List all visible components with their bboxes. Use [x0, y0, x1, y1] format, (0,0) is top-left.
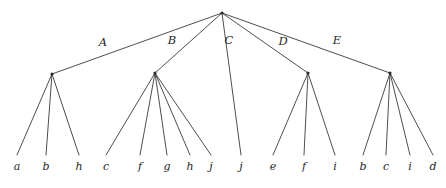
edge-label-a: A: [98, 35, 107, 49]
edge-label-b: B: [167, 33, 176, 47]
root-edge-d: [222, 13, 308, 73]
leaf-label-10-f: f: [301, 160, 308, 173]
tree-diagram-canvas: ABCDE abhcfghjjefibcid: [0, 0, 446, 188]
edge-label-c: C: [225, 33, 234, 47]
leaf-edge-12: [386, 73, 390, 155]
leaf-label-4-f: f: [137, 160, 144, 173]
root-edge-b: [155, 13, 222, 73]
root-node: [220, 11, 223, 14]
leaf-label-3-c: c: [103, 160, 109, 173]
leaf-label-15-d: d: [429, 160, 436, 173]
node-d: [306, 71, 309, 74]
leaf-label-1-b: b: [42, 160, 49, 173]
leaf-edge-10: [308, 73, 335, 155]
leaf-label-0-a: a: [14, 160, 21, 173]
leaf-label-6-h: h: [186, 160, 193, 173]
leaf-label-2-h: h: [75, 160, 82, 173]
leaf-label-8-j: j: [236, 160, 243, 173]
leaf-labels-group: abhcfghjjefibcid: [14, 160, 437, 173]
leaf-label-11-i: i: [333, 160, 337, 173]
leaf-edge-6: [155, 73, 190, 155]
leaf-edges-group: [17, 73, 433, 155]
leaf-label-7-j: j: [206, 160, 213, 173]
leaf-edge-14: [390, 73, 433, 155]
root-edge-e: [222, 13, 390, 73]
leaf-edge-5: [155, 73, 167, 155]
leaf-edge-9: [304, 73, 308, 155]
leaf-label-13-c: c: [383, 160, 389, 173]
edge-label-d: D: [277, 34, 287, 48]
leaf-edge-8: [273, 73, 308, 155]
leaf-label-9-e: e: [270, 160, 277, 173]
node-b: [153, 71, 156, 74]
leaf-edge-13: [390, 73, 410, 155]
node-a: [50, 72, 53, 75]
node-e: [388, 71, 391, 74]
tree-diagram: ABCDE abhcfghjjefibcid: [0, 0, 446, 188]
edge-labels-group: ABCDE: [98, 33, 342, 49]
leaf-label-12-b: b: [359, 160, 366, 173]
leaf-edge-2: [52, 74, 79, 155]
edge-label-e: E: [332, 33, 342, 47]
leaf-label-5-g: g: [163, 160, 170, 173]
root-edge-a: [52, 13, 222, 74]
leaf-edge-7: [155, 73, 211, 155]
leaf-edge-11: [363, 73, 390, 155]
leaf-label-14-i: i: [408, 160, 412, 173]
